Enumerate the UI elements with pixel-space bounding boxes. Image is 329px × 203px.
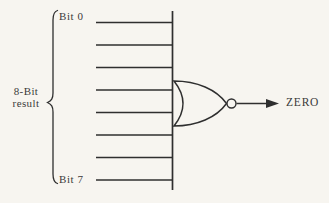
diagram-canvas: Bit 0 Bit 7 8-Bit result ZERO [0,0,329,203]
circuit-diagram [0,0,329,203]
result-label-line1: 8-Bit [3,85,49,97]
inversion-bubble-icon [227,99,236,108]
brace-icon [48,11,58,184]
bit0-label: Bit 0 [59,10,84,22]
output-arrowhead-icon [266,99,279,108]
zero-output-label: ZERO [286,96,319,108]
bit-lines [96,23,173,181]
bit7-label: Bit 7 [59,173,84,185]
nor-gate-icon [174,81,227,126]
result-label-line2: result [3,97,49,109]
result-label: 8-Bit result [3,85,49,109]
